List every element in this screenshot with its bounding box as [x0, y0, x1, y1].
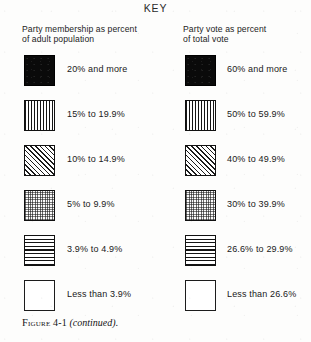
legend-row: 30% to 39.9% — [183, 190, 311, 235]
swatch-empty-icon — [185, 280, 216, 311]
key-title: KEY — [0, 2, 311, 14]
legend-label: 26.6% to 29.9% — [227, 244, 293, 254]
legend-column-party-membership: Party membership as percent of adult pop… — [22, 24, 172, 325]
legend-row: 60% and more — [183, 55, 311, 100]
legend-row: 40% to 49.9% — [183, 145, 311, 190]
legend-row: 15% to 19.9% — [22, 100, 172, 145]
legend-column-party-vote: Party vote as percent of total vote 60% … — [183, 24, 311, 325]
swatch-solid-icon — [24, 55, 55, 86]
swatch-empty-icon — [24, 280, 55, 311]
figure-caption-number: 4-1 — [53, 317, 67, 328]
swatch-vertical-lines-icon — [24, 100, 55, 131]
legend-list-party-vote: 60% and more 50% to 59.9% 40% to 49.9% 3… — [183, 55, 311, 325]
legend-list-party-membership: 20% and more 15% to 19.9% 10% to 14.9% 5… — [22, 55, 172, 325]
legend-label: 20% and more — [67, 64, 127, 74]
column-heading-party-vote: Party vote as percent of total vote — [183, 24, 311, 46]
swatch-diagonal-hatch-icon — [24, 145, 55, 176]
legend-label: 50% to 59.9% — [227, 109, 285, 119]
legend-label: 15% to 19.9% — [67, 109, 125, 119]
legend-label: 40% to 49.9% — [227, 154, 285, 164]
swatch-solid-icon — [185, 55, 216, 86]
legend-row: 26.6% to 29.9% — [183, 235, 311, 280]
legend-label: 60% and more — [227, 64, 287, 74]
swatch-stipple-icon — [185, 190, 216, 221]
swatch-diagonal-hatch-icon — [185, 145, 216, 176]
swatch-vertical-lines-icon — [185, 100, 216, 131]
figure-caption-terminator: . — [115, 317, 118, 328]
figure-caption-note: (continued) — [69, 317, 115, 328]
legend-row: 3.9% to 4.9% — [22, 235, 172, 280]
legend-label: Less than 26.6% — [227, 289, 296, 299]
swatch-horizontal-lines-icon — [185, 235, 216, 266]
legend-row: Less than 26.6% — [183, 280, 311, 325]
legend-label: 5% to 9.9% — [67, 199, 115, 209]
column-heading-party-membership: Party membership as percent of adult pop… — [22, 24, 172, 46]
swatch-stipple-icon — [24, 190, 55, 221]
legend-label: Less than 3.9% — [67, 289, 131, 299]
legend-row: 50% to 59.9% — [183, 100, 311, 145]
legend-row: 20% and more — [22, 55, 172, 100]
swatch-horizontal-lines-icon — [24, 235, 55, 266]
legend-label: 30% to 39.9% — [227, 199, 285, 209]
figure-caption: Figure 4-1 (continued). — [22, 317, 118, 328]
legend-label: 10% to 14.9% — [67, 154, 125, 164]
legend-row: 10% to 14.9% — [22, 145, 172, 190]
legend-row: 5% to 9.9% — [22, 190, 172, 235]
legend-label: 3.9% to 4.9% — [67, 244, 122, 254]
figure-page: KEY Party membership as percent of adult… — [0, 0, 311, 342]
figure-caption-label: Figure — [22, 317, 50, 328]
